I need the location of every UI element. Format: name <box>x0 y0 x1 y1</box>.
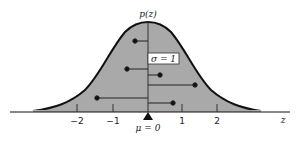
tick-label-2: 2 <box>214 116 220 126</box>
tick-label-1: 1 <box>179 116 185 126</box>
tick-label-neg1: −1 <box>106 116 119 126</box>
tick-label-neg2: −2 <box>70 116 83 126</box>
normal-distribution-diagram: σ = 1 μ = 0 p(z) z −2 −1 1 2 <box>0 0 303 142</box>
x-axis-label: z <box>280 115 286 125</box>
mean-label: μ = 0 <box>136 123 161 133</box>
y-axis-label: p(z) <box>139 9 157 19</box>
sd-label: σ = 1 <box>151 54 176 64</box>
mean-marker-icon <box>143 112 153 120</box>
